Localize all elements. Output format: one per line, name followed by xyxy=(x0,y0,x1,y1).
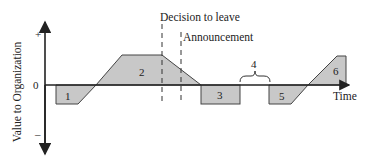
phase-6-shape xyxy=(308,56,346,85)
decision-to-leave-label: Decision to leave xyxy=(160,11,240,23)
phase-1-shape xyxy=(56,85,96,104)
phase-5-shape xyxy=(269,85,308,104)
y-tick-zero: 0 xyxy=(33,79,39,91)
phase-2-shape xyxy=(96,55,201,85)
phase-3-label: 3 xyxy=(217,89,223,101)
phase-6-label: 6 xyxy=(333,65,339,77)
phase-2-label: 2 xyxy=(139,66,145,78)
phase-1-label: 1 xyxy=(65,90,71,102)
x-axis-label: Time xyxy=(333,90,357,102)
y-tick-minus: – xyxy=(34,128,41,140)
y-axis-label: Value to Organization xyxy=(11,41,24,142)
phase-4-brace xyxy=(240,71,270,82)
phase-4-label: 4 xyxy=(251,58,257,70)
value-over-time-diagram: + 0 – Value to Organization Time Decisio… xyxy=(0,0,372,162)
announcement-label: Announcement xyxy=(183,31,254,43)
y-tick-plus: + xyxy=(35,28,41,40)
phase-5-label: 5 xyxy=(279,90,285,102)
